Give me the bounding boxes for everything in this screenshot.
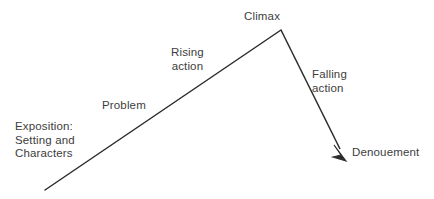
plot-diagram: Exposition: Setting and Characters Probl… <box>0 0 434 199</box>
rising-action-line <box>45 30 281 190</box>
label-problem: Problem <box>102 99 146 113</box>
label-denouement: Denouement <box>352 146 419 160</box>
label-falling-action: Falling action <box>312 68 347 95</box>
label-rising-action: Rising action <box>171 46 204 73</box>
label-climax: Climax <box>244 10 280 24</box>
label-exposition: Exposition: Setting and Characters <box>15 120 75 161</box>
plot-arc-graphic <box>0 0 434 199</box>
